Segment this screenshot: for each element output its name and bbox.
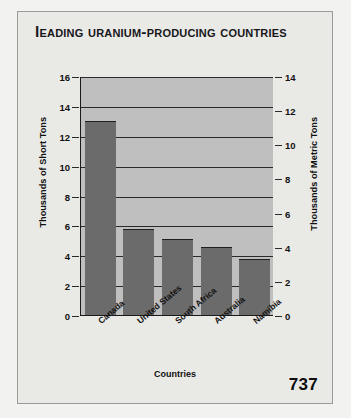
y-axis-tick-label-right: 2: [285, 276, 290, 287]
y-axis-tick-left: [72, 77, 79, 78]
y-axis-tick-label-left: 0: [65, 311, 70, 322]
gridline: [81, 107, 273, 108]
y-axis-tick-label-right: 12: [285, 106, 296, 117]
y-axis-tick-right: [275, 145, 282, 146]
bar: [123, 229, 154, 315]
y-axis-tick-left: [72, 226, 79, 227]
y-axis-tick-right: [275, 248, 282, 249]
y-axis-tick-label-left: 12: [59, 131, 70, 142]
y-axis-tick-left: [72, 286, 79, 287]
y-axis-tick-label-left: 6: [65, 221, 70, 232]
y-axis-label-right: Thousands of Metric Tons: [309, 117, 319, 231]
y-axis-tick-label-right: 10: [285, 140, 296, 151]
y-axis-tick-label-left: 10: [59, 161, 70, 172]
y-axis-tick-right: [275, 316, 282, 317]
y-axis-tick-label-left: 14: [59, 101, 70, 112]
y-axis-tick-label-right: 6: [285, 208, 290, 219]
y-axis-tick-label-right: 4: [285, 242, 290, 253]
y-axis-tick-label-right: 14: [285, 72, 296, 83]
gridline: [81, 77, 273, 78]
page-number: 737: [289, 375, 318, 395]
y-axis-tick-right: [275, 179, 282, 180]
y-axis-tick-left: [72, 167, 79, 168]
y-axis-tick-left: [72, 256, 79, 257]
y-axis-label-left: Thousands of Short Tons: [38, 117, 48, 228]
y-axis-tick-right: [275, 214, 282, 215]
y-axis-tick-label-left: 4: [65, 251, 70, 262]
y-axis-tick-left: [72, 197, 79, 198]
plot-area: 024681012141602468101214: [80, 77, 273, 316]
y-axis-tick-label-left: 16: [59, 72, 70, 83]
y-axis-tick-label-left: 8: [65, 191, 70, 202]
bar: [85, 121, 116, 315]
y-axis-tick-right: [275, 282, 282, 283]
y-axis-tick-right: [275, 77, 282, 78]
chart-panel: Leading Uranium-Producing Countries Thou…: [17, 11, 333, 404]
y-axis-tick-left: [72, 107, 79, 108]
y-axis-tick-label-right: 0: [285, 311, 290, 322]
x-axis-label: Countries: [18, 369, 332, 379]
y-axis-tick-label-right: 8: [285, 174, 290, 185]
page-title: Leading Uranium-Producing Countries: [35, 22, 320, 41]
y-axis-tick-left: [72, 316, 79, 317]
y-axis-tick-left: [72, 137, 79, 138]
y-axis-tick-label-left: 2: [65, 281, 70, 292]
y-axis-tick-right: [275, 111, 282, 112]
